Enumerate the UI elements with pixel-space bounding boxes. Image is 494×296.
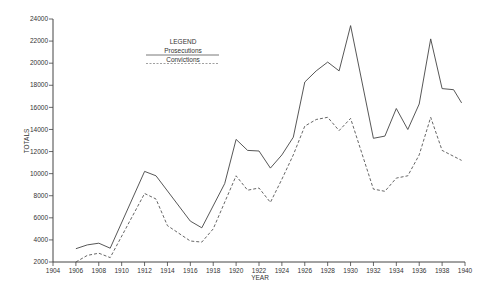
y-axis-title: TOTALS [23,128,30,153]
x-tick-label: 1932 [366,267,381,274]
x-tick-label: 1934 [389,267,404,274]
x-tick-label: 1928 [320,267,335,274]
prosecutions-line [76,26,462,249]
x-tick-label: 1908 [92,267,107,274]
x-tick-label: 1904 [46,267,61,274]
x-tick-label: 1916 [183,267,198,274]
legend-title: LEGEND [170,38,197,45]
y-tick-label: 20000 [30,59,48,66]
y-tick-label: 12000 [30,148,48,155]
x-tick-label: 1922 [252,267,267,274]
line-chart: 2000400060008000100001200014000160001800… [0,0,494,296]
x-tick-label: 1936 [412,267,427,274]
x-axis-tick-labels: 1904190619081910191219141916191819201922… [46,267,473,274]
y-tick-label: 6000 [34,214,49,221]
y-tick-label: 18000 [30,81,48,88]
x-tick-label: 1910 [114,267,129,274]
x-tick-label: 1930 [343,267,358,274]
x-tick-label: 1912 [137,267,152,274]
legend: LEGEND Prosecutions Convictions [146,38,219,64]
y-tick-label: 24000 [30,15,48,22]
y-tick-label: 22000 [30,37,48,44]
y-tick-label: 2000 [34,258,49,265]
x-tick-label: 1938 [435,267,450,274]
x-tick-label: 1924 [275,267,290,274]
convictions-line [76,117,462,262]
x-tick-label: 1906 [69,267,84,274]
x-axis-title: YEAR [251,274,269,281]
x-tick-label: 1926 [298,267,313,274]
y-tick-label: 4000 [34,236,49,243]
x-tick-label: 1914 [160,267,175,274]
y-tick-label: 8000 [34,192,49,199]
legend-label-convictions: Convictions [166,56,200,63]
y-tick-label: 14000 [30,126,48,133]
y-axis-tick-labels: 2000400060008000100001200014000160001800… [30,15,48,265]
x-tick-label: 1918 [206,267,221,274]
y-tick-label: 10000 [30,170,48,177]
x-tick-label: 1920 [229,267,244,274]
x-tick-label: 1940 [458,267,473,274]
axes [49,19,465,266]
legend-label-prosecutions: Prosecutions [164,47,202,54]
y-tick-label: 16000 [30,104,48,111]
